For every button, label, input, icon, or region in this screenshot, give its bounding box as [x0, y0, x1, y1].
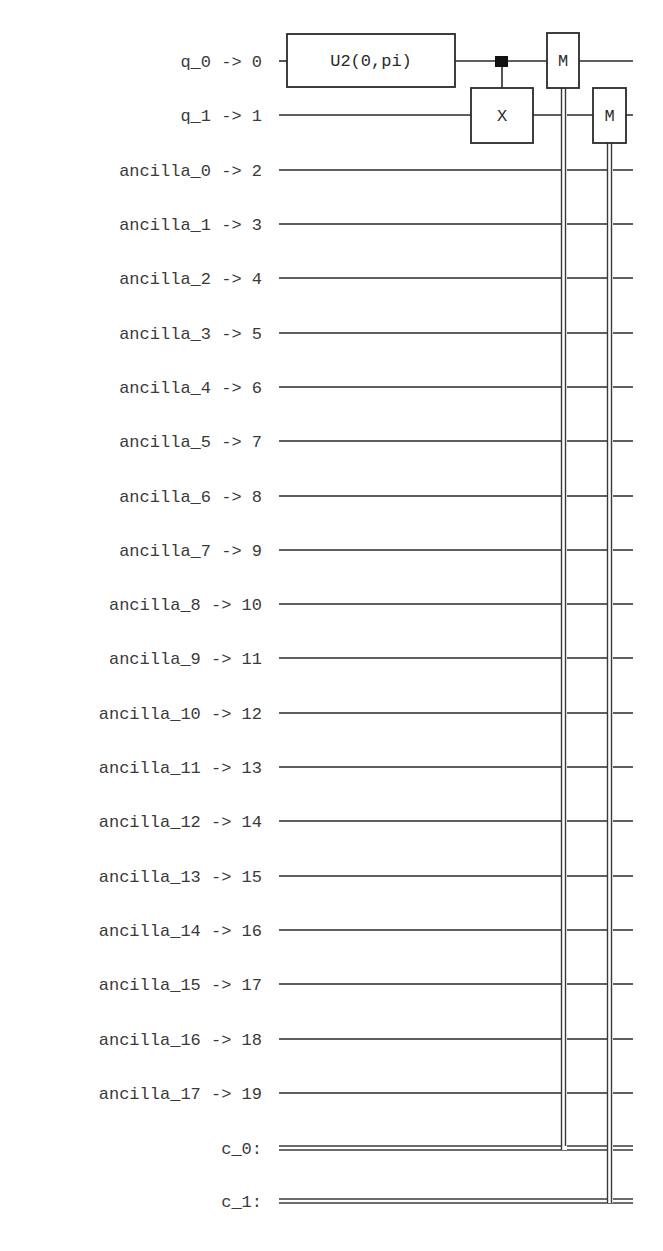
qubit-label: ancilla_5 -> 7 — [119, 433, 262, 452]
quantum-wires — [279, 61, 633, 1093]
qubit-label: ancilla_13 -> 15 — [99, 868, 262, 887]
qubit-label: ancilla_16 -> 18 — [99, 1031, 262, 1050]
classical-wires — [279, 1146, 633, 1203]
cx-gate: X — [471, 56, 533, 143]
measure-connectors — [561, 88, 613, 1203]
qubit-label: ancilla_12 -> 14 — [99, 813, 262, 832]
quantum-circuit-diagram: U2(0,pi) X M M q_0 -> 0 q_1 -> 1 ancilla… — [0, 0, 663, 1251]
qubit-label: ancilla_15 -> 17 — [99, 976, 262, 995]
qubit-label: ancilla_10 -> 12 — [99, 705, 262, 724]
qubit-label: ancilla_2 -> 4 — [119, 270, 262, 289]
qubit-label: ancilla_3 -> 5 — [119, 325, 262, 344]
measure-1-gate: M — [593, 88, 626, 143]
qubit-label: ancilla_14 -> 16 — [99, 922, 262, 941]
qubit-label: ancilla_17 -> 19 — [99, 1085, 262, 1104]
clbit-label: c_0: — [221, 1140, 262, 1159]
measure-1-label: M — [604, 107, 614, 126]
cx-control-dot — [495, 56, 508, 67]
measure-0-gate: M — [547, 33, 579, 88]
qubit-label: ancilla_7 -> 9 — [119, 542, 262, 561]
qubit-label: ancilla_6 -> 8 — [119, 488, 262, 507]
qubit-label: q_0 -> 0 — [180, 53, 262, 72]
u2-gate: U2(0,pi) — [287, 34, 455, 87]
measure-0-label: M — [558, 52, 568, 71]
qubit-label: ancilla_11 -> 13 — [99, 759, 262, 778]
qubit-labels: q_0 -> 0 q_1 -> 1 ancilla_0 -> 2 ancilla… — [99, 53, 262, 1104]
qubit-label: ancilla_9 -> 11 — [109, 650, 262, 669]
qubit-label: ancilla_1 -> 3 — [119, 216, 262, 235]
classical-labels: c_0: c_1: — [221, 1140, 262, 1212]
qubit-label: ancilla_4 -> 6 — [119, 379, 262, 398]
qubit-label: q_1 -> 1 — [180, 107, 262, 126]
clbit-label: c_1: — [221, 1193, 262, 1212]
cx-target-label: X — [497, 107, 507, 126]
qubit-label: ancilla_8 -> 10 — [109, 596, 262, 615]
u2-gate-label: U2(0,pi) — [330, 52, 412, 71]
qubit-label: ancilla_0 -> 2 — [119, 162, 262, 181]
